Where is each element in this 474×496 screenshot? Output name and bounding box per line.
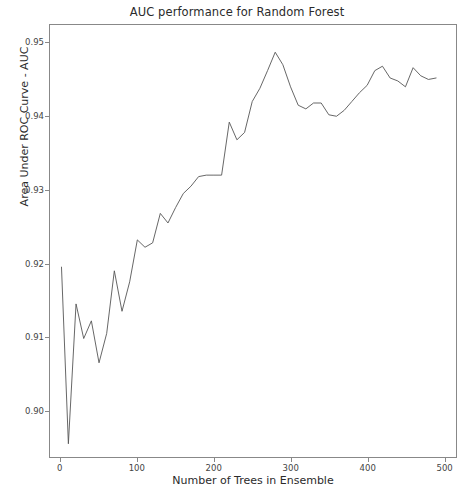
y-axis-tick-0.90: 0.90 — [0, 406, 44, 416]
auc-line-series — [50, 25, 456, 457]
y-axis-tick-0.95: 0.95 — [0, 37, 44, 47]
chart-figure: AUC performance for Random Forest Area U… — [0, 0, 474, 496]
x-tick-mark — [445, 458, 446, 462]
x-axis-tick-300: 300 — [271, 463, 311, 473]
series-polyline — [61, 52, 436, 444]
y-axis-tick-0.91: 0.91 — [0, 332, 44, 342]
x-tick-mark — [214, 458, 215, 462]
x-axis-tick-100: 100 — [117, 463, 157, 473]
y-axis-tick-0.93: 0.93 — [0, 185, 44, 195]
x-axis-tick-500: 500 — [425, 463, 465, 473]
x-tick-mark — [368, 458, 369, 462]
x-axis-tick-0: 0 — [40, 463, 80, 473]
plot-area — [49, 24, 457, 458]
y-axis-tick-0.94: 0.94 — [0, 111, 44, 121]
chart-title: AUC performance for Random Forest — [0, 5, 474, 19]
x-tick-mark — [291, 458, 292, 462]
x-axis-tick-200: 200 — [194, 463, 234, 473]
x-tick-mark — [60, 458, 61, 462]
x-tick-mark — [137, 458, 138, 462]
y-axis-tick-0.92: 0.92 — [0, 259, 44, 269]
x-axis-tick-400: 400 — [348, 463, 388, 473]
x-axis-label: Number of Trees in Ensemble — [49, 474, 457, 487]
